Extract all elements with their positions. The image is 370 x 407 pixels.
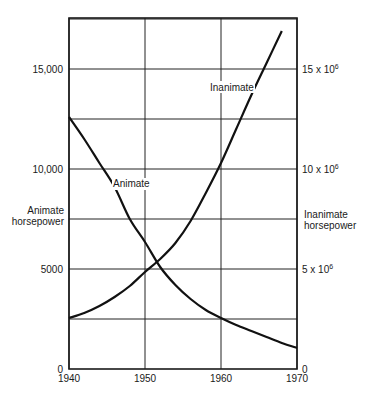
x-tick-label: 1940 [58,373,81,384]
right-tick-label: 5 x 106 [302,263,333,275]
x-tick-label: 1950 [134,373,157,384]
x-tick-label: 1960 [210,373,233,384]
left-axis-label-line2: horsepower [12,216,65,227]
right-tick-label: 10 x 106 [302,163,339,175]
left-tick-label: 5000 [41,264,64,275]
x-axis-ticks: 1940195019601970 [58,373,309,384]
right-tick-label: 0 [302,364,308,375]
left-tick-label: 10,000 [32,164,63,175]
right-tick-label: 15 x 106 [302,63,339,75]
chart: 1940195019601970 0500010,00015,000 05 x … [0,0,370,407]
left-tick-label: 0 [57,364,63,375]
left-axis-label-line1: Animate [27,205,64,216]
right-axis-label-line2: horsepower [304,220,357,231]
inanimate-curve-label: Inanimate [210,82,254,93]
left-tick-label: 15,000 [32,64,63,75]
x-tick-label: 1970 [286,373,309,384]
inanimate-series-line [69,31,282,318]
right-axis-label-line1: Inanimate [304,209,348,220]
animate-curve-label: Animate [113,178,150,189]
